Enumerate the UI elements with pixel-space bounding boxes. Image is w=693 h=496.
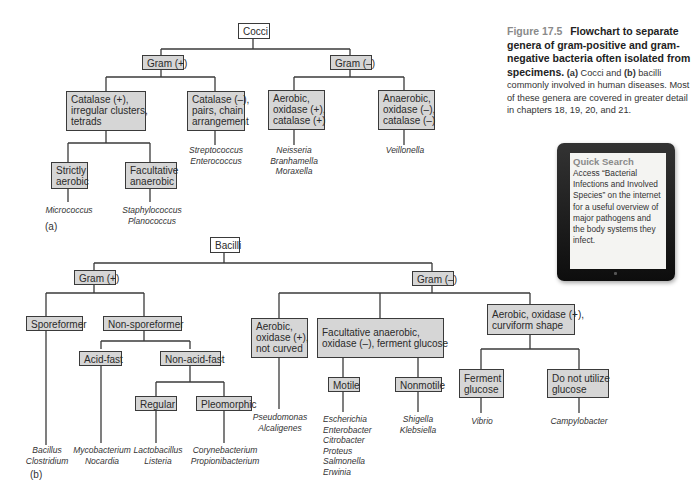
cocci-anaerobic-node: Anaerobic, oxidase (–), catalase (–) xyxy=(378,90,435,130)
line: Facultative xyxy=(130,165,172,176)
cocci-strictly-aerobic-node: Strictly aerobic xyxy=(51,162,88,189)
line: tetrads xyxy=(71,116,141,127)
genus: Alcaligenes xyxy=(253,423,307,434)
line: curviform shape xyxy=(492,320,570,331)
figure-number: Figure 17.5 xyxy=(507,25,562,37)
bacilli-sporeformer-node: Sporeformer xyxy=(26,316,83,331)
subfigure-label-a: (a) xyxy=(45,221,57,232)
bacilli-no-glucose-node: Do not utilize glucose xyxy=(547,369,609,398)
line: pairs, chain xyxy=(192,105,240,116)
genus: Erwinia xyxy=(323,467,372,478)
genus: Citrobacter xyxy=(323,435,372,446)
bacilli-motile-node: Motile xyxy=(328,377,360,392)
line: oxidase (+), xyxy=(273,104,320,115)
genus: Micrococcus xyxy=(45,205,92,216)
bacilli-non-acid-fast-node: Non-acid-fast xyxy=(160,351,221,366)
tablet-screen: Quick Search Access “Bacterial Infection… xyxy=(570,153,666,269)
genus: Salmonella xyxy=(323,456,372,467)
cocci-aerobic-node: Aerobic, oxidase (+), catalase (+) xyxy=(268,90,325,130)
bacilli-non-sporeformer-node: Non-sporeformer xyxy=(103,316,182,331)
line: catalase (–) xyxy=(383,115,430,126)
cocci-facultative-anaerobic-node: Facultative anaerobic xyxy=(125,162,177,189)
genus: Lactobacillus xyxy=(133,445,182,456)
line: Facultative anaerobic, xyxy=(322,327,439,338)
bacilli-curviform-node: Aerobic, oxidase (+), curviform shape xyxy=(487,304,575,335)
genus: Veillonella xyxy=(386,145,424,156)
line: Aerobic, xyxy=(256,321,303,332)
genus: Planococcus xyxy=(122,216,182,227)
genus: Vibrio xyxy=(471,416,493,427)
genus: Mycobacterium xyxy=(73,445,131,456)
genera-shigella-group: Shigella Klebsiella xyxy=(400,414,436,435)
genus: Streptococcus xyxy=(189,145,243,156)
cocci-catalase-positive-node: Catalase (+), irregular clusters, tetrad… xyxy=(66,91,146,131)
genus: Moraxella xyxy=(270,166,318,177)
figure-caption: Figure 17.5 Flowchart to separate genera… xyxy=(507,25,693,117)
line: Anaerobic, xyxy=(383,93,430,104)
genera-micrococcus: Micrococcus xyxy=(45,205,92,216)
genus: Klebsiella xyxy=(400,425,436,436)
line: aerobic xyxy=(56,176,83,187)
line: oxidase (–), ferment glucose xyxy=(322,338,439,349)
line: anaerobic xyxy=(130,176,172,187)
genus: Corynebacterium xyxy=(191,445,260,456)
genus: Enterococcus xyxy=(189,156,243,167)
genus: Shigella xyxy=(400,414,436,425)
line: glucose xyxy=(464,384,499,395)
caption-label-a: (a) xyxy=(567,68,578,78)
cocci-gram-positive-node: Gram (+) xyxy=(142,55,184,70)
line: Aerobic, xyxy=(273,93,320,104)
line: Catalase (–), xyxy=(192,94,240,105)
bacilli-aerobic-not-curved-node: Aerobic, oxidase (+), not curved xyxy=(251,318,308,358)
line: arrangement xyxy=(192,116,240,127)
cocci-gram-negative-node: Gram (–) xyxy=(330,55,372,70)
line: oxidase (+), xyxy=(256,332,303,343)
genera-bacillus-group: Bacillus Clostridium xyxy=(26,445,69,466)
line: catalase (+) xyxy=(273,115,320,126)
subfigure-label-b: (b) xyxy=(30,469,42,480)
genera-streptococcus-group: Streptococcus Enterococcus xyxy=(189,145,243,166)
genus: Neisseria xyxy=(270,145,318,156)
genera-mycobacterium-group: Mycobacterium Nocardia xyxy=(73,445,131,466)
genera-pseudomonas-group: Pseudomonas Alcaligenes xyxy=(253,412,307,433)
bacilli-gram-negative-node: Gram (–) xyxy=(412,271,454,286)
quick-search-title: Quick Search xyxy=(573,156,663,167)
quick-search-tablet: Quick Search Access “Bacterial Infection… xyxy=(557,143,675,281)
bacilli-acid-fast-node: Acid-fast xyxy=(79,351,122,366)
genus: Clostridium xyxy=(26,456,69,467)
bacilli-regular-node: Regular xyxy=(135,396,177,411)
genus: Escherichia xyxy=(323,414,372,425)
quick-search-body: Access “Bacterial Infections and Involve… xyxy=(573,168,663,246)
caption-text-a: Cocci and xyxy=(578,68,624,78)
bacilli-root-node: Bacilli xyxy=(210,237,240,253)
genus: Propionibacterium xyxy=(191,456,260,467)
line: irregular clusters, xyxy=(71,105,141,116)
line: Strictly xyxy=(56,165,83,176)
genus: Staphylococcus xyxy=(122,205,182,216)
cocci-catalase-negative-node: Catalase (–), pairs, chain arrangement xyxy=(187,91,245,131)
line: Aerobic, oxidase (+), xyxy=(492,309,570,320)
genus: Branhamella xyxy=(270,156,318,167)
bacilli-facultative-anaerobic-node: Facultative anaerobic, oxidase (–), ferm… xyxy=(317,318,444,358)
cocci-root-node: Cocci xyxy=(238,23,270,39)
line: Do not utilize xyxy=(552,373,604,384)
genus: Campylobacter xyxy=(550,416,607,427)
caption-label-b: (b) xyxy=(624,68,636,78)
bacilli-gram-positive-node: Gram (+) xyxy=(74,270,116,285)
genus: Proteus xyxy=(323,446,372,457)
line: oxidase (–), xyxy=(383,104,430,115)
genera-enterobacteria-group: Escherichia Enterobacter Citrobacter Pro… xyxy=(323,414,372,477)
genus: Enterobacter xyxy=(323,425,372,436)
bacilli-pleomorphic-node: Pleomorphic xyxy=(196,396,252,411)
genus: Nocardia xyxy=(73,456,131,467)
genera-vibrio: Vibrio xyxy=(471,416,493,427)
line: glucose xyxy=(552,384,604,395)
genera-corynebacterium-group: Corynebacterium Propionibacterium xyxy=(191,445,260,466)
line: Catalase (+), xyxy=(71,94,141,105)
genera-lactobacillus-group: Lactobacillus Listeria xyxy=(133,445,182,466)
genus: Listeria xyxy=(133,456,182,467)
genera-neisseria-group: Neisseria Branhamella Moraxella xyxy=(270,145,318,177)
tablet-home-button-icon xyxy=(614,272,617,275)
line: not curved xyxy=(256,343,303,354)
bacilli-ferment-glucose-node: Ferment glucose xyxy=(459,369,504,398)
